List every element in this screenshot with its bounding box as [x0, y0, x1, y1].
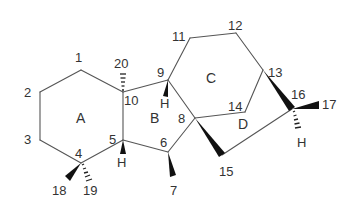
ring-label-a: A [76, 110, 86, 126]
atom-label-18: 18 [52, 183, 66, 198]
wedge-bond-16-17 [292, 101, 319, 109]
atom-label-8: 8 [178, 111, 185, 126]
hydrogen-labels: H H H [117, 96, 306, 170]
hydrogen-label-9: H [160, 96, 169, 111]
wedge-bond-4-18 [65, 163, 81, 181]
hydrogen-label-16: H [297, 135, 306, 150]
bond-15-16 [222, 109, 292, 155]
bond-11-12 [190, 33, 236, 38]
bond-12-13 [236, 33, 263, 70]
atom-label-20: 20 [114, 56, 128, 71]
atom-label-16: 16 [291, 87, 305, 102]
atom-label-19: 19 [83, 183, 97, 198]
ring-label-c: C [206, 70, 216, 86]
atom-label-5: 5 [109, 132, 116, 147]
bond-10-1 [81, 70, 123, 92]
tetracyclic-structure-diagram: A B C D 1 2 3 4 5 6 7 8 9 10 11 12 13 14… [0, 0, 361, 214]
wedge-bond-8-15 [195, 118, 225, 157]
hashed-bond-16-H [293, 111, 301, 128]
atom-label-13: 13 [268, 65, 282, 80]
atom-label-12: 12 [228, 18, 242, 33]
atom-label-15: 15 [219, 164, 233, 179]
bond-1-2 [40, 70, 81, 92]
atom-label-2: 2 [24, 85, 31, 100]
wedge-bond-6-7 [168, 152, 176, 177]
wedge-bond-5-H [120, 140, 126, 154]
bond-13-14 [245, 70, 263, 112]
atom-label-7: 7 [170, 183, 177, 198]
atom-label-1: 1 [75, 50, 82, 65]
atom-label-6: 6 [160, 135, 167, 150]
hydrogen-label-5: H [117, 155, 126, 170]
bond-9-11 [168, 38, 190, 80]
atom-label-10: 10 [124, 93, 138, 108]
bond-10-9 [123, 80, 168, 92]
atom-label-14: 14 [228, 99, 242, 114]
atom-label-4: 4 [75, 146, 82, 161]
atom-label-11: 11 [172, 29, 186, 44]
ring-label-d: D [238, 116, 248, 132]
wedge-bond-9-H [163, 80, 168, 97]
hashed-bond-4-19 [82, 164, 92, 181]
hashed-bond-10-20 [120, 74, 126, 90]
atom-label-17: 17 [322, 97, 336, 112]
atom-label-9: 9 [157, 65, 164, 80]
ring-label-b: B [150, 110, 159, 126]
stereo-bonds [65, 70, 319, 181]
atom-label-3: 3 [24, 132, 31, 147]
